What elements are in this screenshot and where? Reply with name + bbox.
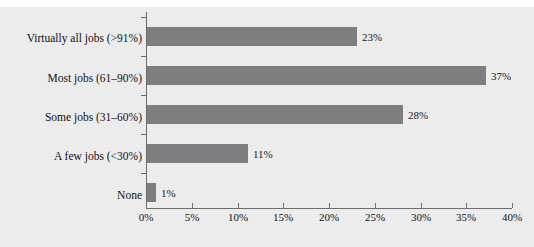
x-axis-tick-0 bbox=[146, 203, 147, 208]
x-axis-label-15: 15% bbox=[263, 211, 303, 224]
bar-value-4: 1% bbox=[161, 187, 176, 199]
category-label-2: Some jobs (31–60%) bbox=[0, 111, 142, 123]
bar-chart-figure: Virtually all jobs (>91%) Most jobs (61–… bbox=[0, 0, 534, 247]
y-axis-line bbox=[146, 12, 147, 208]
x-axis-tick-5 bbox=[192, 203, 193, 208]
y-axis-tick-4 bbox=[141, 173, 146, 174]
x-axis-tick-40 bbox=[512, 203, 513, 208]
x-axis-label-5: 5% bbox=[172, 211, 212, 224]
category-label-4: None bbox=[0, 189, 142, 201]
bar-value-0: 23% bbox=[362, 31, 382, 43]
bar-virtually-all-jobs bbox=[147, 27, 357, 46]
x-axis-label-40: 40% bbox=[492, 211, 532, 224]
category-label-3: A few jobs (<30%) bbox=[0, 150, 142, 162]
y-axis-tick-0 bbox=[141, 17, 146, 18]
plot-area: Virtually all jobs (>91%) Most jobs (61–… bbox=[0, 7, 534, 247]
bar-most-jobs bbox=[147, 66, 486, 85]
x-axis-tick-30 bbox=[421, 203, 422, 208]
x-axis-line bbox=[146, 208, 512, 209]
x-axis-tick-25 bbox=[375, 203, 376, 208]
category-label-1: Most jobs (61–90%) bbox=[0, 72, 142, 84]
y-axis-tick-3 bbox=[141, 134, 146, 135]
x-axis-label-10: 10% bbox=[218, 211, 258, 224]
bar-value-3: 11% bbox=[253, 148, 273, 160]
bar-none bbox=[147, 183, 156, 202]
x-axis-tick-35 bbox=[466, 203, 467, 208]
bar-value-1: 37% bbox=[491, 70, 511, 82]
bar-some-jobs bbox=[147, 105, 403, 124]
x-axis-label-35: 35% bbox=[446, 211, 486, 224]
x-axis-label-30: 30% bbox=[401, 211, 441, 224]
clipped-header-text bbox=[0, 0, 534, 7]
y-axis-tick-1 bbox=[141, 56, 146, 57]
x-axis-tick-20 bbox=[329, 203, 330, 208]
category-label-0: Virtually all jobs (>91%) bbox=[0, 32, 142, 44]
x-axis-label-20: 20% bbox=[309, 211, 349, 224]
x-axis-label-0: 0% bbox=[126, 211, 166, 224]
x-axis-tick-15 bbox=[283, 203, 284, 208]
y-axis-tick-2 bbox=[141, 95, 146, 96]
x-axis-label-25: 25% bbox=[355, 211, 395, 224]
bar-value-2: 28% bbox=[408, 109, 428, 121]
x-axis-tick-10 bbox=[238, 203, 239, 208]
bar-a-few-jobs bbox=[147, 144, 248, 163]
